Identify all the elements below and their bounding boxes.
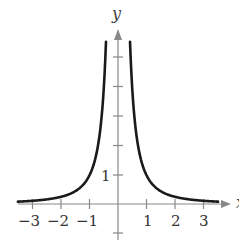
curve-left-branch [18, 42, 106, 202]
curve-right-branch [130, 42, 218, 202]
y-tick-label: 1 [101, 167, 111, 185]
x-tick-label: 1 [143, 212, 153, 230]
x-tick-label: 2 [171, 212, 181, 230]
x-axis-label: x [236, 193, 239, 212]
x-tick-label: 3 [199, 212, 209, 230]
x-tick-label: −3 [18, 212, 40, 230]
x-axis-arrow-icon [221, 200, 231, 208]
y-axis-label: y [111, 4, 122, 23]
x-tick-label: −2 [47, 212, 69, 230]
x-tick-label: −1 [76, 212, 98, 230]
graph: −3 −2 −1 1 2 3 1 y x [0, 0, 239, 245]
y-axis-arrow-icon [114, 29, 122, 40]
